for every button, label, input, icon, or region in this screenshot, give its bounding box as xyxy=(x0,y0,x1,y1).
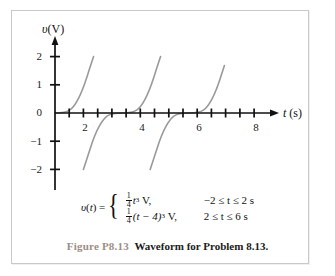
figure-page: 2 1 0 −1 −2 2 4 6 8 υ(V) t (s) υ(t) = { … xyxy=(0,0,335,276)
equation-row-2-expression: 1 4 (t − 4)3 V, xyxy=(126,208,204,225)
equation-row-1-fraction: 1 4 xyxy=(126,192,132,209)
equation-row-1-unit: V, xyxy=(142,194,151,206)
equation-row-1-expression: 1 4 t3 V, xyxy=(126,192,204,209)
y-tick-label-minus2: −2 xyxy=(22,164,42,175)
equation-row-1-condition: −2 ≤ t ≤ 2 s xyxy=(204,194,254,206)
equation-row-2-exponent: 3 xyxy=(162,212,166,220)
plot-area: 2 1 0 −1 −2 2 4 6 8 υ(V) t (s) xyxy=(0,0,335,200)
y-tick-label-0: 0 xyxy=(26,107,42,118)
y-axis-arrowhead xyxy=(52,36,59,45)
x-tick-label-4: 4 xyxy=(137,122,147,133)
x-tick-label-8: 8 xyxy=(251,122,261,133)
x-axis-title-variable: t xyxy=(283,106,286,120)
equation-row-2-base: (t − 4) xyxy=(133,210,162,222)
axis-arrowheads xyxy=(52,36,279,116)
curve-branch-1 xyxy=(55,57,94,113)
equation-row-1-exponent: 3 xyxy=(136,196,140,204)
equation-row-2-fraction: 1 4 xyxy=(126,208,132,225)
figure-caption-number: Figure P8.13 xyxy=(67,240,129,252)
equation-left-hand-side: υ(t) = xyxy=(81,192,108,213)
equation-row-1: 1 4 t3 V, −2 ≤ t ≤ 2 s xyxy=(126,192,254,208)
figure-caption-text: Waveform for Problem 8.13. xyxy=(134,240,268,252)
x-tick-label-2: 2 xyxy=(80,122,90,133)
equation-rows: 1 4 t3 V, −2 ≤ t ≤ 2 s 1 4 (t − 4)3 V, 2… xyxy=(126,192,254,224)
equation-row-2-denominator: 4 xyxy=(126,216,132,225)
y-tick-label-minus1: −1 xyxy=(22,136,42,147)
x-axis-title: t (s) xyxy=(283,106,302,121)
curve-branch-3 xyxy=(150,66,224,170)
y-tick-label-2: 2 xyxy=(26,51,42,62)
x-axis-arrowhead xyxy=(270,110,279,117)
equation-row-2-numerator: 1 xyxy=(126,208,132,216)
equation-lhs-close-equals: ) = xyxy=(93,201,106,213)
equation-row-1-numerator: 1 xyxy=(126,192,132,200)
equation-row-2-condition: 2 ≤ t ≤ 6 s xyxy=(204,210,248,222)
y-tick-label-1: 1 xyxy=(26,79,42,90)
x-axis-title-unit: (s) xyxy=(289,106,302,120)
piecewise-equation: υ(t) = { 1 4 t3 V, −2 ≤ t ≤ 2 s 1 4 (t −… xyxy=(0,192,335,224)
y-axis-title: υ(V) xyxy=(42,22,64,37)
figure-caption: Figure P8.13 Waveform for Problem 8.13. xyxy=(0,240,335,252)
x-tick-label-6: 6 xyxy=(194,122,204,133)
equation-brace: { xyxy=(108,191,121,217)
y-axis-title-unit: (V) xyxy=(48,22,65,36)
equation-row-2-unit: V, xyxy=(168,210,177,222)
equation-row-2: 1 4 (t − 4)3 V, 2 ≤ t ≤ 6 s xyxy=(126,208,254,224)
